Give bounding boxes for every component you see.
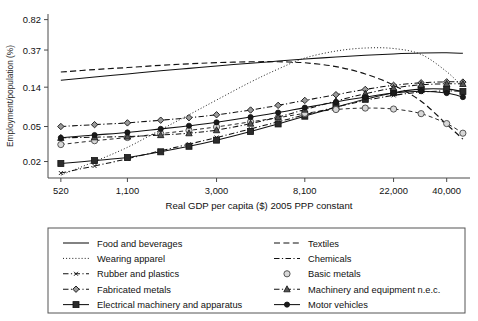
marker-open-circle [460,130,466,136]
marker-filled-circle [284,302,289,307]
marker-filled-circle [186,123,191,128]
marker-diamond [213,112,219,118]
marker-diamond [58,123,64,129]
x-tick-label: 22,000 [379,185,408,196]
marker-square [124,155,130,161]
legend-right-label: Textiles [308,239,339,249]
marker-filled-circle [419,89,424,94]
y-tick-label: 0.37 [23,45,41,56]
legend-right-label: Machinery and equipment n.e.c. [308,285,440,295]
x-tick-label: 520 [53,185,69,196]
series-line [61,82,463,127]
marker-filled-circle [92,132,97,137]
series-line [61,91,463,173]
marker-diamond [247,107,253,113]
x-axis-title: Real GDP per capita ($) 2005 PPP constan… [166,200,353,211]
marker-filled-circle [214,120,219,125]
series-motor-vehicles [58,89,465,141]
marker-diamond [275,102,281,108]
y-tick-label: 0.82 [23,14,41,25]
series-line [61,62,463,139]
marker-diamond [302,97,308,103]
marker-open-circle [362,105,368,111]
marker-filled-circle [363,94,368,99]
marker-open-circle [418,111,424,117]
legend-right-label: Motor vehicles [308,300,368,310]
legend-left-item[interactable]: Electrical machinery and apparatus [63,300,243,310]
legend-right-label: Basic metals [308,269,361,279]
marker-diamond [91,121,97,127]
marker-open-circle [444,120,450,126]
marker-square [73,302,79,308]
series-textiles [61,62,463,139]
marker-open-circle [390,106,396,112]
legend-left-item[interactable]: Food and beverages [63,239,183,249]
series-line [61,89,463,164]
marker-filled-circle [302,105,307,110]
marker-square [214,137,220,143]
marker-diamond [73,286,79,292]
series-wearing-apparel [61,48,463,175]
legend-left-label: Electrical machinery and apparatus [97,300,243,310]
marker-square [186,143,192,149]
legend-left-item[interactable]: Wearing apparel [63,254,165,264]
legend-right-item[interactable]: Chemicals [274,254,352,264]
legend-right-item[interactable]: Basic metals [284,269,361,279]
marker-filled-circle [444,90,449,95]
series-rubber-and-plastics [59,89,465,175]
legend-left-label: Rubber and plastics [97,269,180,279]
series-line [61,48,463,175]
legend-right-label: Chemicals [308,254,352,264]
marker-open-circle [58,141,64,147]
series-line [61,108,463,144]
marker-filled-circle [125,130,130,135]
marker-open-circle [284,271,290,277]
legend-left-item[interactable]: Fabricated metals [63,285,171,295]
marker-filled-circle [276,110,281,115]
legend-right-item[interactable]: Machinery and equipment n.e.c. [274,285,440,295]
y-tick-label: 0.02 [23,156,41,167]
legend-left-label: Fabricated metals [97,285,171,295]
x-tick-label: 3,000 [205,185,228,196]
x-tick-label: 1,100 [116,185,139,196]
marker-diamond [158,117,164,123]
marker-square [58,160,64,166]
employment-gdp-line-chart: 0.820.370.140.050.025201,1003,0008,10022… [0,0,478,321]
y-tick-label: 0.14 [23,82,41,93]
marker-square [275,121,281,127]
y-tick-label: 0.05 [23,121,41,132]
legend-left-label: Wearing apparel [97,254,165,264]
x-tick-label: 8,100 [293,185,316,196]
marker-filled-circle [391,90,396,95]
plot-area [58,48,466,175]
marker-diamond [124,120,130,126]
marker-filled-circle [158,126,163,131]
marker-filled-circle [58,135,63,140]
series-electrical-machinery-and-apparatus [58,86,466,166]
x-tick-label: 40,000 [432,185,461,196]
legend-left-item[interactable]: Rubber and plastics [63,269,180,279]
y-axis-title: Employment/population (%) [5,45,15,147]
series-line [61,91,463,138]
legend-right-item[interactable]: Motor vehicles [274,300,368,310]
marker-square [92,158,98,164]
legend-left-label: Food and beverages [97,239,183,249]
legend-right-item[interactable]: Textiles [274,239,339,249]
chart-figure: 0.820.370.140.050.025201,1003,0008,10022… [0,0,478,321]
marker-filled-circle [333,99,338,104]
marker-filled-circle [248,114,253,119]
series-basic-metals [58,105,466,148]
marker-open-circle [333,106,339,112]
marker-square [460,89,466,95]
marker-square [158,149,164,155]
marker-square [248,128,254,134]
marker-filled-circle [460,94,465,99]
